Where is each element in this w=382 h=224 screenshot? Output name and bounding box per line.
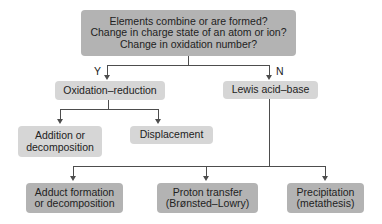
displacement-box: Displacement — [130, 126, 213, 144]
lewis-split-line — [73, 166, 326, 167]
no-arrow-icon — [266, 75, 272, 80]
yes-label: Y — [94, 65, 101, 77]
redox-drop-line — [108, 100, 109, 109]
oxidation-reduction-box: Oxidation–reduction — [55, 81, 165, 100]
proton-transfer-box: Proton transfer (Brønsted–Lowry) — [157, 183, 258, 213]
displacement-label: Displacement — [140, 129, 204, 141]
root-drop-line — [188, 56, 189, 65]
addition-arrow-icon — [57, 119, 63, 124]
lewis-drop-line — [269, 99, 270, 166]
addition-line-1: Addition or — [26, 130, 94, 142]
root-line-3: Change in oxidation number? — [90, 39, 286, 51]
addition-decomposition-box: Addition or decomposition — [18, 126, 102, 157]
precipitation-box: Precipitation (metathesis) — [287, 183, 364, 213]
precipitation-line-2: (metathesis) — [297, 198, 355, 210]
proton-arrow-icon — [203, 176, 209, 181]
lewis-acid-base-label: Lewis acid–base — [232, 84, 310, 96]
no-label: N — [276, 65, 284, 77]
redox-split-line — [60, 109, 159, 110]
root-question-box: Elements combine or are formed? Change i… — [81, 10, 296, 56]
yes-arrow-icon — [104, 75, 110, 80]
adduct-arrow-icon — [70, 176, 76, 181]
precipitation-arrow-icon — [322, 176, 328, 181]
adduct-formation-box: Adduct formation or decomposition — [26, 183, 123, 213]
proton-line-2: (Brønsted–Lowry) — [166, 198, 249, 210]
oxidation-reduction-label: Oxidation–reduction — [63, 85, 156, 97]
lewis-acid-base-box: Lewis acid–base — [223, 81, 318, 99]
root-split-line — [107, 65, 270, 66]
addition-line-2: decomposition — [26, 142, 94, 154]
adduct-line-2: or decomposition — [35, 198, 115, 210]
displacement-arrow-icon — [155, 119, 161, 124]
